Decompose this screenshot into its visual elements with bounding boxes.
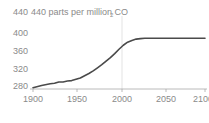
x-tick-label-2050: 2050 [156, 94, 176, 104]
x-axis-ticks [33, 89, 205, 92]
y-tick-label-440: 440 [13, 7, 28, 17]
chart-title: 440 parts per million CO [31, 7, 128, 17]
y-tick-label-320: 320 [13, 64, 28, 74]
x-tick-label-1900: 1900 [23, 94, 43, 104]
y-tick-label-360: 360 [13, 46, 28, 56]
y-tick-label-280: 280 [13, 81, 28, 91]
x-tick-label-2000: 2000 [112, 94, 132, 104]
y-tick-label-400: 400 [13, 28, 28, 38]
x-tick-label-2100: 2100 [193, 94, 209, 104]
x-tick-label-1950: 1950 [67, 94, 87, 104]
chart-canvas: 440 400 360 320 280 440 parts per millio… [0, 0, 209, 123]
co2-data-line [33, 38, 205, 87]
co2-line-chart: 440 400 360 320 280 440 parts per millio… [0, 0, 209, 123]
